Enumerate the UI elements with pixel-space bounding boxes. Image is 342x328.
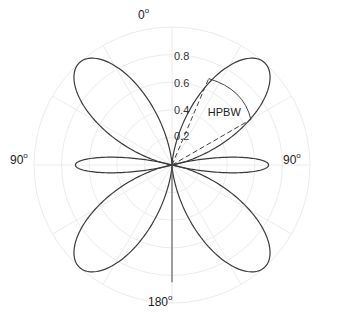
angle-label: 90o [10, 153, 28, 166]
radial-tick-label: 0.4 [174, 105, 189, 116]
angle-label: 90o [283, 153, 301, 166]
radial-tick-label: 0.2 [174, 131, 189, 142]
hpbw-label: HPBW [208, 107, 241, 118]
angle-label: 180o [148, 295, 172, 308]
radial-tick-label: 0.8 [174, 51, 189, 62]
radial-tick-label: 0.6 [174, 78, 189, 89]
angle-label: 0o [138, 8, 149, 21]
